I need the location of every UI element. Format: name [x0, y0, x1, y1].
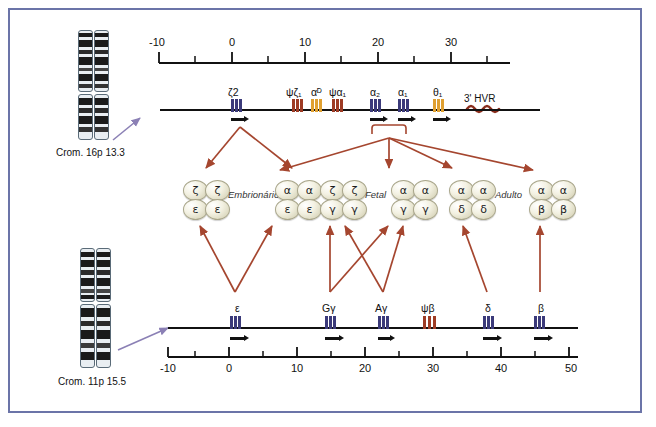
globin-subunit: α — [551, 180, 576, 201]
alpha-gene-label: ψα₁ — [329, 86, 346, 98]
alpha-gene-label: α₂ — [370, 86, 380, 98]
beta-gene-label: Aγ — [375, 302, 387, 314]
alpha-axis-tick-3: 20 — [372, 36, 384, 48]
alpha-gene-direction-arrow — [433, 116, 451, 122]
beta-axis — [168, 347, 578, 357]
globin-subunit: ε — [205, 199, 230, 220]
beta-axis-tick-2: 10 — [291, 362, 303, 374]
globin-subunit: ζ — [342, 180, 367, 201]
alpha-gene-bracket — [372, 125, 406, 134]
globin-subunit: α — [297, 180, 322, 201]
alpha-gene-label: ψζ₁ — [286, 86, 302, 98]
alpha-gene-label: ζ2 — [228, 86, 238, 98]
globin-gene-cluster-diagram: Crom. 16p 13.3 — [0, 0, 656, 427]
beta-gene-direction-arrow — [483, 335, 503, 341]
beta-axis-tick-1: 0 — [226, 362, 232, 374]
alpha-axis-tick-4: 30 — [445, 36, 457, 48]
alpha-gene-direction-arrow — [231, 116, 249, 122]
pointer-chr11 — [118, 328, 168, 350]
beta-gene-label: β — [538, 302, 544, 314]
beta-gene-direction-arrow — [230, 335, 250, 341]
globin-subunit: α — [471, 180, 496, 201]
alpha-axis-tick-1: 0 — [229, 36, 235, 48]
beta-gene-direction-arrow — [534, 335, 554, 341]
beta-gene-direction-arrow — [325, 335, 345, 341]
alpha-axis-tick-0: -10 — [149, 36, 165, 48]
beta-axis-tick-5: 40 — [495, 362, 507, 374]
alpha-axis — [159, 52, 510, 63]
beta-gene-label: ψβ — [421, 302, 435, 314]
beta-axis-tick-6: 50 — [565, 362, 577, 374]
pointer-chr16 — [113, 118, 140, 140]
alpha-gene-label: αᴰ — [311, 86, 322, 98]
globin-subunit: β — [551, 199, 576, 220]
alpha-gene-label: θ₁ — [433, 86, 442, 98]
alpha-expression-arrows — [206, 127, 533, 170]
globin-subunit: δ — [471, 199, 496, 220]
alpha-axis-tick-2: 10 — [299, 36, 311, 48]
beta-axis-tick-3: 20 — [359, 362, 371, 374]
stage-label-fetal: Fetal — [365, 189, 386, 200]
beta-gene-direction-arrow — [378, 335, 396, 341]
beta-expression-arrows — [200, 226, 540, 292]
alpha-gene-label: α₁ — [398, 86, 408, 98]
beta-gene-label: ε — [235, 302, 240, 314]
globin-subunit: ε — [297, 199, 322, 220]
globin-subunit: γ — [413, 199, 438, 220]
beta-gene-label: δ — [485, 302, 491, 314]
alpha-gene-direction-arrow — [370, 116, 388, 122]
globin-subunit: ζ — [205, 180, 230, 201]
beta-gene-label: Gγ — [322, 302, 335, 314]
alpha-gene-line — [160, 109, 540, 111]
globin-subunit: γ — [342, 199, 367, 220]
stage-label-adult: Adulto — [495, 189, 522, 200]
beta-axis-tick-0: -10 — [160, 362, 176, 374]
alpha-gene-direction-arrow — [398, 116, 416, 122]
globin-subunit: α — [413, 180, 438, 201]
beta-axis-tick-4: 30 — [427, 362, 439, 374]
hvr-label: 3' HVR — [464, 93, 495, 104]
stage-label-embryonic: Embrionário — [228, 189, 279, 200]
